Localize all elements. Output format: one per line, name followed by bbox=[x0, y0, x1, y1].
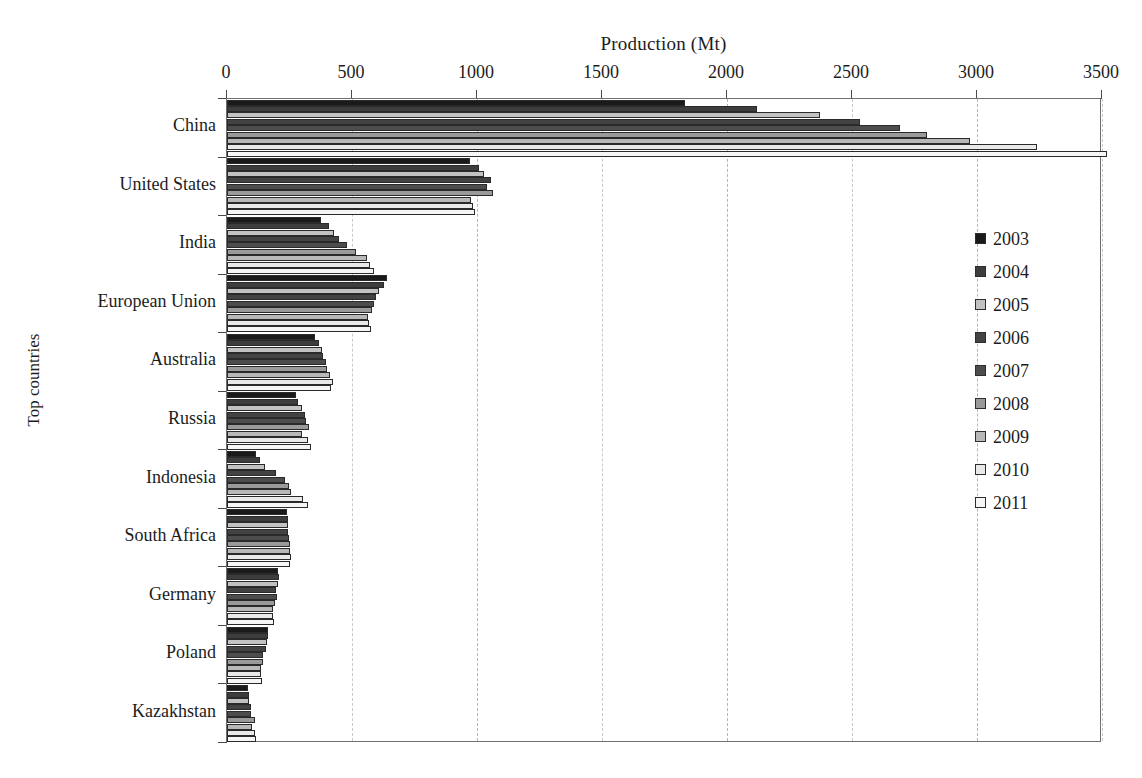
bar bbox=[227, 594, 277, 600]
bar bbox=[227, 639, 267, 645]
bar bbox=[227, 326, 371, 332]
bar bbox=[227, 301, 374, 307]
bar bbox=[227, 151, 1107, 157]
x-tick-label-1000: 1000 bbox=[436, 62, 516, 83]
bar bbox=[227, 165, 479, 171]
bar-group bbox=[227, 626, 1100, 685]
bar bbox=[227, 262, 370, 268]
legend-item[interactable]: 2005 bbox=[975, 288, 1029, 321]
bar bbox=[227, 665, 261, 671]
bar bbox=[227, 529, 288, 535]
bar bbox=[227, 678, 262, 684]
bar bbox=[227, 717, 255, 723]
x-axis-title: Production (Mt) bbox=[226, 33, 1101, 55]
bar bbox=[227, 483, 289, 489]
bar bbox=[227, 522, 288, 528]
y-tick bbox=[218, 742, 227, 743]
bar bbox=[227, 372, 330, 378]
bar bbox=[227, 502, 308, 508]
bar bbox=[227, 347, 322, 353]
bar bbox=[227, 568, 278, 574]
bar bbox=[227, 203, 473, 209]
plot-area bbox=[226, 98, 1101, 742]
bar bbox=[227, 581, 278, 587]
bar bbox=[227, 171, 484, 177]
bar bbox=[227, 197, 471, 203]
bar bbox=[227, 249, 356, 255]
bar bbox=[227, 268, 374, 274]
bar bbox=[227, 230, 334, 236]
bar bbox=[227, 242, 347, 248]
bar bbox=[227, 294, 376, 300]
bar bbox=[227, 736, 256, 742]
legend-item[interactable]: 2008 bbox=[975, 387, 1029, 420]
y-axis-label-australia: Australia bbox=[46, 349, 226, 370]
legend-item[interactable]: 2006 bbox=[975, 321, 1029, 354]
bar bbox=[227, 255, 367, 261]
bar bbox=[227, 223, 329, 229]
bar bbox=[227, 314, 368, 320]
bar bbox=[227, 399, 298, 405]
x-tick-label-500: 500 bbox=[311, 62, 391, 83]
bar bbox=[227, 724, 252, 730]
bar-group bbox=[227, 216, 1100, 275]
bar bbox=[227, 730, 255, 736]
bar bbox=[227, 470, 276, 476]
bar bbox=[227, 366, 327, 372]
bar bbox=[227, 144, 1037, 150]
legend-label: 2003 bbox=[993, 230, 1029, 248]
bar bbox=[227, 307, 372, 313]
x-tick-label-0: 0 bbox=[186, 62, 266, 83]
legend-swatch-icon bbox=[975, 266, 986, 277]
bar bbox=[227, 158, 470, 164]
bar bbox=[227, 177, 491, 183]
legend-item[interactable]: 2004 bbox=[975, 255, 1029, 288]
bar bbox=[227, 379, 333, 385]
bar bbox=[227, 574, 279, 580]
bar bbox=[227, 489, 291, 495]
bar bbox=[227, 613, 273, 619]
bar bbox=[227, 236, 339, 242]
y-axis-label-china: China bbox=[46, 115, 226, 136]
bar bbox=[227, 412, 305, 418]
y-axis-label-indonesia: Indonesia bbox=[46, 467, 226, 488]
legend-swatch-icon bbox=[975, 431, 986, 442]
bar bbox=[227, 451, 256, 457]
bar bbox=[227, 698, 249, 704]
bar bbox=[227, 418, 306, 424]
bar bbox=[227, 548, 290, 554]
bar bbox=[227, 359, 326, 365]
bar bbox=[227, 334, 315, 340]
bar bbox=[227, 554, 291, 560]
legend-item[interactable]: 2010 bbox=[975, 453, 1029, 486]
bar bbox=[227, 652, 263, 658]
legend-item[interactable]: 2011 bbox=[975, 486, 1029, 519]
bar bbox=[227, 627, 268, 633]
legend-item[interactable]: 2009 bbox=[975, 420, 1029, 453]
bar bbox=[227, 541, 290, 547]
x-tick-label-2000: 2000 bbox=[686, 62, 766, 83]
x-tick-label-1500: 1500 bbox=[561, 62, 641, 83]
bar bbox=[227, 659, 263, 665]
bar bbox=[227, 711, 251, 717]
y-axis-title: Top countries bbox=[24, 300, 44, 460]
bar bbox=[227, 132, 927, 138]
bar bbox=[227, 516, 288, 522]
chart-figure: Production (Mt) Top countries 0500100015… bbox=[0, 0, 1142, 778]
legend-label: 2005 bbox=[993, 296, 1029, 314]
y-axis-label-russia: Russia bbox=[46, 408, 226, 429]
bar bbox=[227, 138, 970, 144]
legend-item[interactable]: 2007 bbox=[975, 354, 1029, 387]
x-tick-label-2500: 2500 bbox=[811, 62, 891, 83]
bar bbox=[227, 392, 296, 398]
y-axis-label-poland: Poland bbox=[46, 642, 226, 663]
y-axis-label-united-states: United States bbox=[46, 174, 226, 195]
bar bbox=[227, 282, 384, 288]
legend-label: 2007 bbox=[993, 362, 1029, 380]
bar bbox=[227, 509, 287, 515]
legend-item[interactable]: 2003 bbox=[975, 222, 1029, 255]
legend-swatch-icon bbox=[975, 299, 986, 310]
legend-swatch-icon bbox=[975, 398, 986, 409]
bar bbox=[227, 633, 268, 639]
bar bbox=[227, 671, 261, 677]
